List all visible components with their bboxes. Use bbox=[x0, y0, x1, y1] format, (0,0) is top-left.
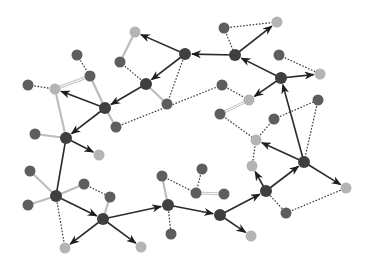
dark-node bbox=[269, 114, 280, 125]
hub-node bbox=[298, 156, 310, 168]
dotted-edge bbox=[286, 188, 346, 213]
light-node bbox=[341, 183, 352, 194]
light-node bbox=[244, 95, 255, 106]
directed-edge bbox=[141, 35, 185, 54]
dark-node bbox=[215, 109, 226, 120]
dotted-edge bbox=[224, 22, 277, 28]
light-node bbox=[315, 69, 326, 80]
dark-node bbox=[217, 80, 228, 91]
hub-node bbox=[99, 102, 111, 114]
hub-node bbox=[97, 213, 109, 225]
directed-edge bbox=[168, 205, 213, 214]
directed-edge bbox=[111, 84, 146, 104]
directed-edge bbox=[70, 219, 103, 244]
directed-edge bbox=[266, 166, 298, 191]
dotted-edge bbox=[279, 55, 320, 74]
directed-edge bbox=[56, 196, 97, 216]
dotted-edge bbox=[220, 114, 256, 140]
dark-node bbox=[281, 208, 292, 219]
hub-node bbox=[179, 48, 191, 60]
hub-node bbox=[60, 132, 72, 144]
dark-node bbox=[115, 57, 126, 68]
directed-edge bbox=[283, 85, 304, 162]
dark-node bbox=[157, 171, 168, 182]
dotted-edge bbox=[56, 196, 65, 248]
hub-node bbox=[275, 72, 287, 84]
light-node bbox=[136, 242, 147, 253]
light-node bbox=[247, 161, 258, 172]
light-node bbox=[251, 135, 262, 146]
directed-edge bbox=[235, 26, 272, 55]
directed-edge bbox=[103, 206, 161, 219]
dark-node bbox=[197, 164, 208, 175]
hub-node bbox=[162, 199, 174, 211]
light-node bbox=[50, 84, 61, 95]
light-node bbox=[130, 27, 141, 38]
hub-node bbox=[50, 190, 62, 202]
dark-node bbox=[30, 129, 41, 140]
light-node bbox=[246, 231, 257, 242]
dark-node bbox=[219, 23, 230, 34]
dark-node bbox=[23, 200, 34, 211]
hub-node bbox=[214, 209, 226, 221]
directed-edge bbox=[192, 54, 235, 55]
dark-node bbox=[191, 188, 202, 199]
network-diagram bbox=[0, 0, 370, 273]
dark-node bbox=[219, 189, 230, 200]
dark-node bbox=[274, 50, 285, 61]
directed-edge bbox=[72, 108, 105, 134]
dark-node bbox=[79, 179, 90, 190]
hub-node bbox=[229, 49, 241, 61]
directed-edge bbox=[103, 219, 136, 243]
dotted-edge bbox=[304, 100, 318, 162]
dark-node bbox=[23, 80, 34, 91]
light-node bbox=[60, 243, 71, 254]
dark-node bbox=[72, 50, 83, 61]
dark-node bbox=[105, 192, 116, 203]
dark-node bbox=[85, 71, 96, 82]
light-edge bbox=[55, 89, 66, 138]
dotted-edge bbox=[162, 176, 196, 193]
dotted-edge bbox=[274, 100, 318, 119]
dark-node bbox=[111, 122, 122, 133]
directed-edge bbox=[241, 58, 281, 78]
solid-edge bbox=[56, 138, 66, 196]
dark-node bbox=[25, 166, 36, 177]
double-edge bbox=[55, 76, 90, 89]
directed-edge bbox=[262, 143, 304, 162]
light-node bbox=[272, 17, 283, 28]
nodes-layer bbox=[23, 17, 352, 254]
hub-node bbox=[140, 78, 152, 90]
dark-node bbox=[166, 229, 177, 240]
dark-node bbox=[313, 95, 324, 106]
directed-edge bbox=[304, 162, 340, 185]
light-node bbox=[94, 150, 105, 161]
dark-node bbox=[162, 99, 173, 110]
hub-node bbox=[260, 185, 272, 197]
